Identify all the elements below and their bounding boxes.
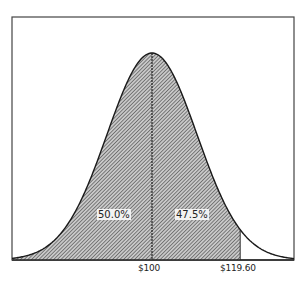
normal-distribution-chart (0, 0, 307, 291)
middle-region-percent-label: 47.5% (175, 209, 209, 220)
left-region-percent-label: 50.0% (97, 209, 131, 220)
upper-tick-label: $119.60 (220, 263, 256, 273)
mean-tick-label: $100 (138, 263, 160, 273)
